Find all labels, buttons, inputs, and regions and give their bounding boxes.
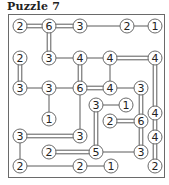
island-value: 4 xyxy=(152,107,159,120)
island-value: 4 xyxy=(77,52,84,65)
island-node[interactable]: 1 xyxy=(148,19,162,33)
island-value: 6 xyxy=(77,82,84,95)
island-node[interactable]: 6 xyxy=(134,114,148,128)
island-value: 3 xyxy=(17,130,24,143)
island-node[interactable]: 2 xyxy=(42,145,56,159)
island-node[interactable]: 2 xyxy=(13,159,27,173)
island-value: 3 xyxy=(46,52,53,65)
island-value: 2 xyxy=(17,52,24,65)
island-value: 1 xyxy=(152,20,159,33)
island-node[interactable]: 4 xyxy=(148,51,162,65)
island-value: 3 xyxy=(77,130,84,143)
island-node[interactable]: 1 xyxy=(104,159,118,173)
island-node[interactable]: 4 xyxy=(73,51,87,65)
island-value: 2 xyxy=(17,160,24,173)
island-value: 3 xyxy=(17,82,24,95)
island-node[interactable]: 4 xyxy=(148,130,162,144)
island-node[interactable]: 3 xyxy=(73,129,87,143)
island-node[interactable]: 3 xyxy=(134,81,148,95)
island-value: 4 xyxy=(152,52,159,65)
island-node[interactable]: 1 xyxy=(119,98,133,112)
island-node[interactable]: 2 xyxy=(13,19,27,33)
island-value: 3 xyxy=(93,99,100,112)
island-node[interactable]: 4 xyxy=(148,106,162,120)
island-node[interactable]: 2 xyxy=(103,114,117,128)
island-node[interactable]: 3 xyxy=(42,81,56,95)
island-value: 6 xyxy=(138,115,145,128)
island-node[interactable]: 3 xyxy=(89,98,103,112)
island-node[interactable]: 2 xyxy=(120,19,134,33)
island-node[interactable]: 2 xyxy=(73,159,87,173)
hashi-puzzle-board[interactable]: 2632123444336433141263342532212 xyxy=(0,0,169,185)
island-node[interactable]: 6 xyxy=(73,81,87,95)
island-value: 2 xyxy=(77,160,84,173)
island-value: 2 xyxy=(152,160,159,173)
island-value: 2 xyxy=(46,146,53,159)
island-value: 4 xyxy=(107,52,114,65)
island-node[interactable]: 2 xyxy=(148,159,162,173)
island-value: 5 xyxy=(93,146,100,159)
island-node[interactable]: 6 xyxy=(42,19,56,33)
island-node[interactable]: 4 xyxy=(103,81,117,95)
island-value: 2 xyxy=(107,115,114,128)
island-node[interactable]: 3 xyxy=(73,19,87,33)
bridges-layer xyxy=(18,24,157,166)
island-node[interactable]: 1 xyxy=(42,112,56,126)
island-node[interactable]: 3 xyxy=(13,81,27,95)
island-node[interactable]: 3 xyxy=(134,145,148,159)
island-value: 2 xyxy=(124,20,131,33)
island-node[interactable]: 5 xyxy=(89,145,103,159)
island-value: 4 xyxy=(152,131,159,144)
island-value: 3 xyxy=(138,82,145,95)
island-value: 1 xyxy=(46,113,53,126)
island-value: 3 xyxy=(77,20,84,33)
island-node[interactable]: 2 xyxy=(13,51,27,65)
island-value: 6 xyxy=(46,20,53,33)
island-node[interactable]: 3 xyxy=(42,51,56,65)
island-node[interactable]: 4 xyxy=(103,51,117,65)
island-node[interactable]: 3 xyxy=(13,129,27,143)
island-value: 3 xyxy=(46,82,53,95)
island-value: 2 xyxy=(17,20,24,33)
island-value: 1 xyxy=(108,160,115,173)
island-value: 4 xyxy=(107,82,114,95)
island-value: 3 xyxy=(138,146,145,159)
island-value: 1 xyxy=(123,99,130,112)
